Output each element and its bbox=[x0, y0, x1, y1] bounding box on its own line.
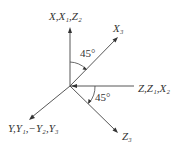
label-horizontal-axis: Z,Z₁,X₂ bbox=[138, 82, 170, 94]
label-x3-axis: X₃ bbox=[112, 22, 124, 34]
angle-label-lower: 45° bbox=[95, 91, 110, 103]
arrowhead-icon bbox=[68, 27, 72, 33]
label-y-axis: Y,Y₁,−Y₂,Y₃ bbox=[8, 122, 59, 134]
axis-x3 bbox=[70, 37, 118, 86]
coordinate-diagram: X,X₁,Z₂ X₃ Z,Z₁,X₂ Z₃ Y,Y₁,−Y₂,Y₃ 45° 45… bbox=[0, 0, 182, 148]
axis-y bbox=[29, 86, 70, 120]
angle-label-upper: 45° bbox=[80, 47, 95, 59]
axis-vertical bbox=[68, 27, 72, 86]
label-vertical-axis: X,X₁,Z₂ bbox=[48, 10, 82, 22]
axis-horizontal bbox=[70, 84, 134, 88]
label-z3-axis: Z₃ bbox=[122, 130, 132, 142]
angle-marker-upper bbox=[70, 62, 87, 70]
angle-marker-lower bbox=[88, 86, 95, 104]
